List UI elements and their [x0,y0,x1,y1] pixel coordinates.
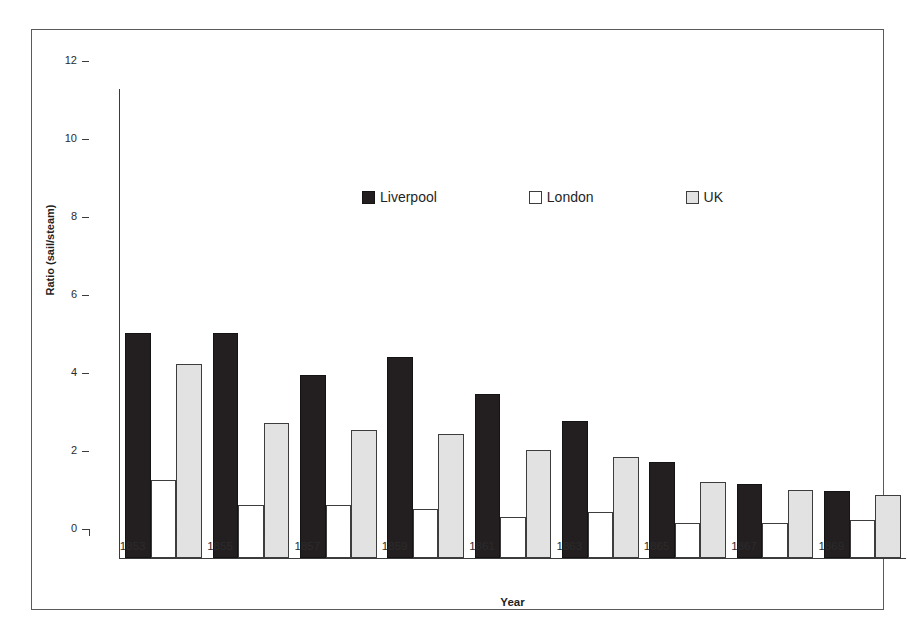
x-tick-mark [89,529,90,536]
y-tick-label: 6 [45,289,77,301]
y-tick-mark [82,61,89,62]
bar-liverpool-1859 [387,357,413,558]
legend-item-london: London [529,190,594,204]
y-tick-mark [82,139,89,140]
x-tick-mark [788,529,789,536]
chart-legend: Liverpool London UK [362,190,723,204]
bar-uk-1859 [438,434,464,558]
figure-frame: Ratio (sail/steam) 024681012 18531855185… [31,29,884,610]
x-axis-title: Year [119,596,906,608]
legend-label-uk: UK [704,190,723,204]
y-axis-title: Ratio (sail/steam) [44,170,56,330]
x-tick-label-1853: 1853 [93,541,173,553]
y-tick-mark [82,217,89,218]
x-tick-mark [264,529,265,536]
bar-uk-1855 [264,423,290,558]
legend-item-liverpool: Liverpool [362,190,437,204]
y-tick-label-text: 6 [47,289,77,300]
x-tick-label-1861: 1861 [442,541,522,553]
x-tick-mark [351,529,352,536]
x-tick-label-1855: 1855 [180,541,260,553]
x-tick-mark [613,529,614,536]
x-tick-label-1863: 1863 [529,541,609,553]
x-tick-label-1869: 1869 [791,541,871,553]
x-tick-mark [438,529,439,536]
y-tick-mark [82,295,89,296]
legend-swatch-icon-uk [686,191,699,204]
x-tick-label-1867: 1867 [704,541,784,553]
legend-label-london: London [547,190,594,204]
y-tick-label: 8 [45,211,77,223]
x-tick-mark [700,529,701,536]
y-tick-mark [82,451,89,452]
x-axis-line [119,558,906,559]
y-tick-mark [82,529,89,530]
bar-uk-1853 [176,364,202,558]
legend-item-uk: UK [686,190,723,204]
x-tick-mark [526,529,527,536]
y-tick-label-text: 8 [47,211,77,222]
y-tick-label-text: 10 [47,133,77,144]
x-tick-mark [875,529,876,536]
bar-liverpool-1853 [125,333,151,558]
y-tick-label-text: 0 [47,523,77,534]
bar-liverpool-1863 [562,421,588,558]
y-tick-label: 4 [45,367,77,379]
plot-area [120,90,906,558]
y-tick-label: 12 [45,55,77,67]
bar-uk-1869 [875,495,901,558]
bar-liverpool-1861 [475,394,501,558]
bar-liverpool-1855 [213,333,239,558]
bar-uk-1857 [351,430,377,558]
y-tick-label-text: 4 [47,367,77,378]
y-tick-mark [82,373,89,374]
y-tick-label: 0 [45,523,77,535]
y-tick-label: 2 [45,445,77,457]
x-tick-label-1859: 1859 [355,541,435,553]
legend-label-liverpool: Liverpool [380,190,437,204]
x-tick-label-1857: 1857 [267,541,347,553]
x-tick-label-1865: 1865 [617,541,697,553]
legend-swatch-icon-liverpool [362,191,375,204]
y-tick-label-text: 12 [47,55,77,66]
x-tick-mark [176,529,177,536]
bar-liverpool-1857 [300,375,326,558]
y-tick-label-text: 2 [47,445,77,456]
y-tick-label: 10 [45,133,77,145]
legend-swatch-icon-london [529,191,542,204]
